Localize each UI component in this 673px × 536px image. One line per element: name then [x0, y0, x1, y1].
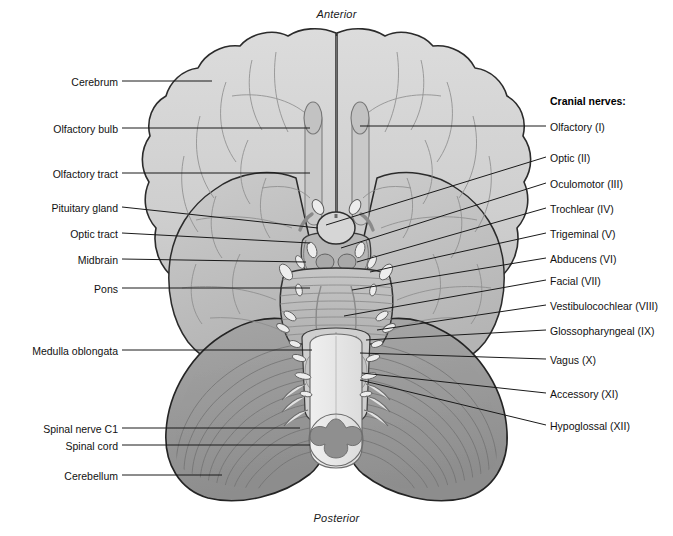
label-spinal-cord: Spinal cord — [65, 440, 118, 452]
label-olfactory-tract: Olfactory tract — [53, 168, 118, 180]
label-medulla-oblongata: Medulla oblongata — [32, 345, 118, 357]
label-pituitary-gland: Pituitary gland — [51, 202, 118, 214]
label-spinal-nerve-c1: Spinal nerve C1 — [43, 423, 118, 435]
label-glossopharyngeal-ix: Glossopharyngeal (IX) — [550, 325, 654, 337]
olfactory-bulb-right — [351, 102, 369, 134]
label-abducens-vi: Abducens (VI) — [550, 253, 617, 265]
label-cerebrum: Cerebrum — [71, 76, 118, 88]
brain-anatomy-figure: Anterior Posterior Cranial nerves: — [0, 0, 673, 536]
label-vestibulocochlear-viii: Vestibulocochlear (VIII) — [550, 300, 658, 312]
label-hypoglossal-xii: Hypoglossal (XII) — [550, 420, 630, 432]
label-midbrain: Midbrain — [78, 254, 118, 266]
label-optic-tract: Optic tract — [70, 228, 118, 240]
label-facial-vii: Facial (VII) — [550, 275, 601, 287]
label-olfactory-i: Olfactory (I) — [550, 121, 605, 133]
label-optic-ii: Optic (II) — [550, 152, 590, 164]
olfactory-bulb-left — [304, 102, 322, 134]
label-trigeminal-v: Trigeminal (V) — [550, 228, 616, 240]
label-accessory-xi: Accessory (XI) — [550, 388, 618, 400]
label-pons: Pons — [94, 283, 118, 295]
spinal-cord-group — [309, 334, 363, 468]
label-trochlear-iv: Trochlear (IV) — [550, 203, 614, 215]
label-olfactory-bulb: Olfactory bulb — [53, 123, 118, 135]
label-oculomotor-iii: Oculomotor (III) — [550, 178, 623, 190]
label-cerebellum: Cerebellum — [64, 470, 118, 482]
label-vagus-x: Vagus (X) — [550, 354, 596, 366]
